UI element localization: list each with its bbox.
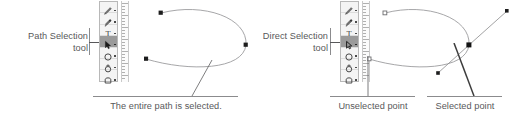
- panel-path-selection: Path Selection tool: [0, 0, 254, 121]
- selected-point-caption: Selected point: [421, 100, 509, 112]
- path-selection-arrow-glyph: [103, 36, 113, 46]
- pen-tool-glyph: [103, 2, 113, 12]
- custom-shape-glyph: [344, 59, 354, 69]
- tool-flyout-dot: [114, 55, 115, 56]
- pen-freeform-tool-icon[interactable]: [100, 13, 117, 24]
- path-artwork-point-selected: [367, 4, 509, 79]
- tool-flyout-dot: [355, 79, 356, 80]
- custom-shape-tool-icon[interactable]: [341, 59, 358, 70]
- path-selection-tool-label: Path Selection tool: [4, 31, 88, 54]
- tool-flyout-dot: [114, 44, 115, 45]
- caption-rule-unselected: [330, 96, 415, 97]
- caption-leader-line: [186, 60, 218, 97]
- tool-flyout-dot: [114, 10, 115, 11]
- caption-rule-selected: [427, 96, 502, 97]
- type-tool-icon[interactable]: T: [100, 25, 117, 36]
- direct-selection-tool-icon[interactable]: [341, 36, 358, 47]
- vertical-ruler: [121, 1, 129, 82]
- path-selection-tool-icon[interactable]: [100, 36, 117, 47]
- tool-flyout-dot: [114, 33, 115, 34]
- custom-shape-glyph: [103, 59, 113, 69]
- tool-palette[interactable]: T: [99, 1, 118, 82]
- unselected-point-caption: Unselected point: [323, 100, 423, 112]
- tool-flyout-dot: [355, 44, 356, 45]
- direct-selection-arrow-glyph: [344, 36, 354, 46]
- rounded-rectangle-tool-icon[interactable]: [341, 70, 358, 81]
- tool-flyout-dot: [355, 10, 356, 11]
- tool-flyout-dot: [355, 55, 356, 56]
- rounded-rectangle-glyph: [344, 71, 354, 81]
- type-tool-glyph: T: [344, 25, 354, 35]
- pen-freeform-tool-glyph: [103, 14, 113, 24]
- caption-rule: [93, 96, 238, 97]
- rounded-rectangle-glyph: [103, 71, 113, 81]
- unselected-point-leader-line: [365, 56, 371, 97]
- selected-point-leader-line: [451, 43, 479, 97]
- type-tool-icon[interactable]: T: [341, 25, 358, 36]
- ellipse-shape-glyph: [344, 48, 354, 58]
- pen-tool-icon[interactable]: [100, 2, 117, 13]
- tool-palette[interactable]: T: [340, 1, 359, 82]
- entire-path-caption: The entire path is selected.: [86, 100, 246, 112]
- ellipse-shape-glyph: [103, 48, 113, 58]
- rounded-rectangle-tool-icon[interactable]: [100, 70, 117, 81]
- tool-flyout-dot: [114, 79, 115, 80]
- custom-shape-tool-icon[interactable]: [100, 59, 117, 70]
- tool-flyout-dot: [114, 21, 115, 22]
- pen-tool-icon[interactable]: [341, 2, 358, 13]
- direct-selection-tool-label: Direct Selection tool: [238, 31, 328, 54]
- panel-direct-selection: Direct Selection tool: [255, 0, 509, 121]
- photoshop-selection-tools-figure: Path Selection tool: [0, 0, 509, 121]
- ellipse-shape-tool-icon[interactable]: [100, 48, 117, 59]
- tool-flyout-dot: [355, 33, 356, 34]
- pen-freeform-tool-icon[interactable]: [341, 13, 358, 24]
- pen-tool-glyph: [344, 2, 354, 12]
- tool-flyout-dot: [355, 21, 356, 22]
- type-tool-glyph: T: [103, 25, 113, 35]
- ellipse-shape-tool-icon[interactable]: [341, 48, 358, 59]
- pen-freeform-tool-glyph: [344, 14, 354, 24]
- tool-flyout-dot: [355, 67, 356, 68]
- tool-flyout-dot: [114, 67, 115, 68]
